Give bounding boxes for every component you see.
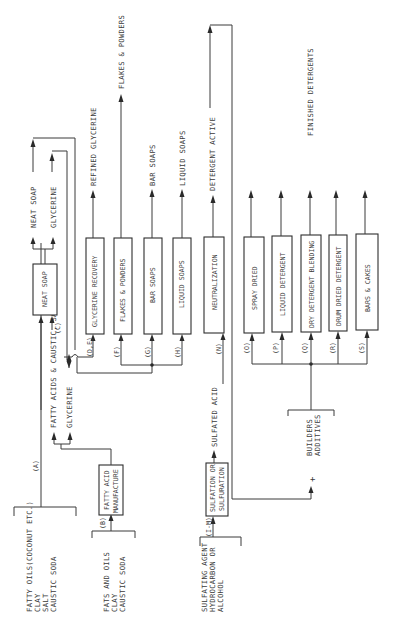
arrow-glycerine-fam-icon [68,432,73,440]
output-refined-glycerine: REFINED GLYCERINE [89,107,98,186]
neutralization-label: NEUTRALIZATION [211,254,219,310]
arrow-bar-soaps-out-icon [150,189,155,197]
input-sulfating-line-3: ALCOHOL [216,580,225,612]
label-neat-soap-out: NEAT SOAP [29,186,38,228]
arrow-p-icon [280,332,285,340]
arrow-refined-glycerine-icon [91,190,96,198]
bracket-a [14,507,76,516]
arrow-liquid-soaps-out-icon [180,189,185,197]
stream-label-q: (Q) [301,342,309,354]
stream-label-s: (S) [358,342,366,354]
stream-label-f: (F) [113,346,121,358]
liquid-soaps-label: LIQUID SOAPS [178,260,186,308]
flakes-powders-label: FLAKES & POWDERS [119,258,127,322]
arrow-g-icon [150,334,155,341]
input-builders-line-2: ADDITIVES [313,414,322,456]
neat-soap-label: NEAT SOAP [41,271,49,307]
output-liquid-soaps: LIQUID SOAPS [178,130,187,186]
stream-label-im: (I-M) [205,517,213,537]
stream-label-de: (D,E) [86,337,94,357]
arrow-sulfated-acid-icon [212,450,217,458]
arrow-s-icon [365,330,370,338]
process-flow-diagram: FATTY OILS(COCONUT ETC.) CLAY SALT CAUST… [0,0,398,625]
input-fats-oils-line-3: CAUSTIC SODA [118,556,127,612]
sulfation-line-1: SULFATION OR [209,464,217,512]
label-glycerine-fam: GLYCERINE [65,386,74,428]
arrow-h-icon [180,334,185,341]
input-fatty-oils: FATTY OILS(COCONUT ETC.) CLAY SALT CAUST… [25,501,58,612]
drum-dried-detergent-label: DRUM DRIED DETERGENT [335,247,343,326]
stream-label-a: (A) [32,460,40,472]
arrow-detergent-active-icon [211,195,216,203]
arrow-glycerine-out-icon [51,237,56,244]
arrow-da-loop-icon [208,25,213,33]
label-sulfated-acid: SULFATED ACID [210,387,219,447]
arrow-o-icon [250,333,255,341]
output-flakes-powders: FLAKES & POWDERS [117,15,126,89]
label-glycerine-out: GLYCERINE [49,186,58,228]
arrow-liquid-det-out-icon [279,190,284,198]
plus-sign: + [307,476,317,482]
arrow-neat-soap-loop-icon [31,139,36,147]
fatty-acid-manufacture-line-1: FATTY ACID [103,470,111,510]
glycerine-recovery-label: GLYCERINE RECOVERY [91,256,99,327]
sulfation-line-2: SULFURATION [218,467,226,511]
input-fats-and-oils: FATS AND OILS CLAY CAUSTIC SODA [102,552,127,612]
bar-soaps-label: BAR SOAPS [149,267,157,303]
stream-label-n: (N) [215,343,223,355]
arrow-flakes-out-icon [119,94,124,102]
fatty-acid-manufacture-line-2: MANUFACTURE [112,469,120,513]
stream-label-o: (O) [243,342,251,354]
arrow-r-icon [336,331,341,339]
stream-label-h: (H) [174,346,182,358]
arrow-glycerine-feed-down-icon [67,361,72,368]
arrow-a-into-neat-soap-icon [39,316,44,323]
bracket-b [92,531,135,538]
finished-detergents-title: FINISHED DETERGENTS [306,48,315,136]
arrow-glycerine-loop-icon [50,153,55,161]
liquid-detergent-label: LIQUID DETERGENT [279,252,287,316]
output-detergent-active: DETERGENT ACTIVE [208,117,217,191]
stream-label-b: (B) [99,517,107,529]
spray-dried-label: SPRAY DRIED [251,266,259,310]
bracket-builders [288,410,334,416]
arrow-n-icon [221,333,226,340]
arrow-fatty-acids-icon [52,432,57,440]
dry-detergent-blending-label: DRY DETERGENT BLENDING [308,241,316,328]
arrow-neat-soap-out-icon [31,237,36,244]
arrow-spray-out-icon [249,190,254,198]
stream-label-c: (C) [54,322,62,334]
junction-soap-bus [150,363,154,367]
output-bar-soaps: BAR SOAPS [148,144,157,186]
stream-label-g: (G) [144,346,152,358]
stream-label-p: (P) [272,342,280,354]
arrow-da-to-builders-icon [309,486,314,493]
arrow-q-icon [309,332,314,340]
stream-label-r: (R) [329,342,337,354]
arrow-bars-out-icon [363,190,368,198]
arrow-f-icon [119,334,124,341]
bars-cakes-label: BARS & CAKES [364,264,372,312]
arrow-dry-det-out-icon [308,190,313,198]
input-sulfating: SULFATING AGENT HYDROCARBON OR ALCOHOL [200,542,225,612]
arrow-drum-out-icon [334,190,339,198]
input-fatty-oils-line-4: CAUSTIC SODA [49,556,58,612]
